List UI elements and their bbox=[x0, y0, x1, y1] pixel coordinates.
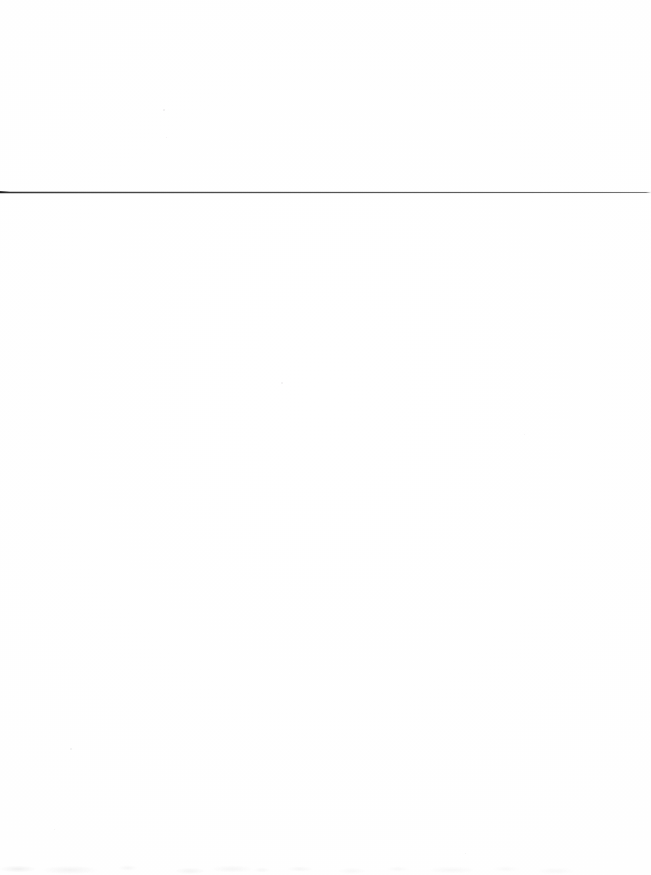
scan-speck bbox=[166, 137, 167, 138]
scan-speck bbox=[524, 434, 525, 435]
horizontal-rule bbox=[0, 191, 651, 195]
paper-background bbox=[0, 0, 651, 875]
scan-speck bbox=[465, 853, 466, 854]
scan-speck bbox=[54, 829, 55, 830]
scan-noise-band bbox=[0, 859, 651, 875]
horizontal-rule-stroke bbox=[0, 192, 651, 193]
scan-speck bbox=[163, 109, 165, 111]
scan-speck bbox=[70, 748, 72, 750]
horizontal-rule-left-cap bbox=[0, 191, 10, 193]
scanned-page bbox=[0, 0, 651, 875]
scan-speck bbox=[281, 382, 283, 384]
